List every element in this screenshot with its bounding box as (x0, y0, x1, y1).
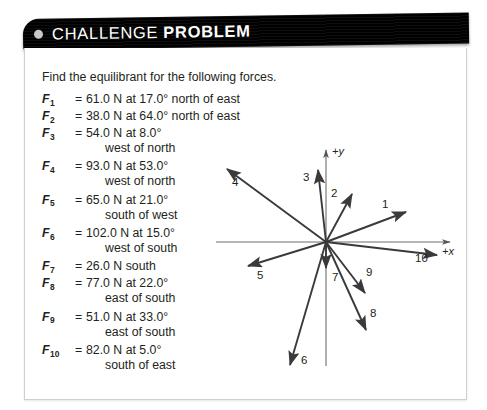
force-value: 54.0 N at 8.0° (86, 126, 161, 140)
force-vector-3 (318, 170, 326, 242)
banner-title-regular: CHALLENGE (52, 23, 159, 43)
list-item: F3 = 54.0 N at 8.0° west of north (42, 126, 232, 156)
y-axis-label: +y (332, 145, 345, 157)
banner-title: CHALLENGEPROBLEM (52, 22, 251, 44)
force-symbol: F10 (42, 343, 75, 357)
vector-label-1: 1 (382, 198, 388, 210)
vector-label-8: 8 (370, 307, 376, 319)
vector-label-10: 10 (415, 252, 428, 264)
equals-sign: = (75, 159, 86, 173)
force-vector-4 (227, 169, 326, 242)
vector-label-4: 4 (232, 176, 239, 188)
force-value: 26.0 N south (86, 259, 156, 273)
force-value: 65.0 N at 21.0° (86, 193, 168, 207)
force-symbol: F6 (42, 226, 75, 240)
banner-background: CHALLENGEPROBLEM (23, 12, 469, 50)
equals-sign: = (75, 226, 86, 240)
list-item: F8 = 77.0 N at 22.0° east of south (42, 276, 232, 306)
force-symbol: F5 (42, 193, 75, 207)
equals-sign: = (75, 109, 86, 123)
force-value: 102.0 N at 15.0° (86, 226, 175, 240)
list-item: F6 = 102.0 N at 15.0° west of south (42, 226, 232, 256)
force-symbol: F7 (42, 259, 75, 273)
vector-label-7: 7 (332, 271, 338, 283)
list-item: F4 = 93.0 N at 53.0° west of north (42, 159, 232, 189)
page-root: CHALLENGEPROBLEM Find the equilibrant fo… (0, 0, 487, 410)
force-value: 51.0 N at 33.0° (86, 310, 168, 324)
equals-sign: = (75, 310, 86, 324)
x-axis-label: +x (442, 245, 454, 257)
force-value: 93.0 N at 53.0° (86, 159, 168, 173)
vector-label-2: 2 (331, 187, 337, 199)
vector-label-6: 6 (301, 354, 307, 366)
force-symbol: F3 (42, 126, 75, 140)
equals-sign: = (75, 92, 86, 106)
list-item: F1 = 61.0 N at 17.0° north of east (42, 92, 232, 106)
equals-sign: = (75, 276, 86, 290)
force-value: 82.0 N at 5.0° (86, 343, 161, 357)
force-value: 61.0 N at 17.0° north of east (86, 92, 240, 106)
problem-prompt: Find the equilibrant for the following f… (42, 70, 276, 84)
banner-content: CHALLENGEPROBLEM (23, 12, 469, 50)
equals-sign: = (75, 193, 86, 207)
equals-sign: = (75, 343, 86, 357)
force-symbol: F8 (42, 276, 75, 290)
banner-title-bold: PROBLEM (163, 22, 251, 41)
equals-sign: = (75, 259, 86, 273)
list-item: F7 = 26.0 N south (42, 259, 232, 273)
equals-sign: = (75, 126, 86, 140)
force-symbol: F9 (42, 310, 75, 324)
diagram-svg: +x+y 12345678910 (210, 138, 465, 383)
list-item: F2 = 38.0 N at 64.0° north of east (42, 109, 232, 123)
force-vector-1 (326, 212, 406, 242)
list-item: F9 = 51.0 N at 33.0° east of south (42, 310, 232, 340)
force-vector-diagram: +x+y 12345678910 (210, 138, 465, 383)
list-item: F10 = 82.0 N at 5.0° south of east (42, 343, 232, 373)
vector-label-3: 3 (303, 171, 309, 183)
force-vector-5 (248, 242, 326, 266)
force-value: 77.0 N at 22.0° (86, 276, 168, 290)
force-symbol: F4 (42, 159, 75, 173)
force-vector-6 (290, 242, 326, 365)
force-list: F1 = 61.0 N at 17.0° north of east F2 = … (42, 92, 232, 377)
vector-label-9: 9 (366, 266, 372, 278)
force-value: 38.0 N at 64.0° north of east (86, 109, 240, 123)
dot-icon (34, 30, 43, 39)
diagram-labels: 12345678910 (232, 171, 428, 366)
force-vector-2 (326, 194, 352, 242)
force-symbol: F1 (42, 92, 75, 106)
vector-label-5: 5 (257, 269, 263, 281)
list-item: F5 = 65.0 N at 21.0° south of west (42, 193, 232, 223)
force-symbol: F2 (42, 109, 75, 123)
